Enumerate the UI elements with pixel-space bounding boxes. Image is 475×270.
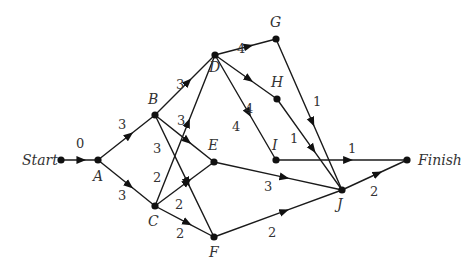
edges-group: [61, 39, 407, 237]
nodes-group: [57, 35, 410, 240]
node-a: [94, 156, 101, 163]
node-label-h: H: [270, 74, 284, 90]
node-d: [211, 51, 218, 58]
activity-network-diagram: 033333222444321112 StartABCDEFGHIJFinish: [0, 0, 475, 270]
node-label-e: E: [207, 137, 218, 153]
node-label-g: G: [270, 14, 281, 30]
edge-h-j: [277, 99, 342, 190]
node-e: [210, 158, 217, 165]
node-j: [338, 186, 345, 193]
node-label-start: Start: [22, 152, 58, 168]
edge-weight-b-e: 3: [177, 113, 185, 128]
edge-weight-i-finish: 1: [348, 141, 356, 156]
edge-weight-f-j: 2: [268, 225, 276, 240]
node-g: [272, 35, 279, 42]
node-i: [272, 156, 279, 163]
edge-weight-b-f: 3: [153, 141, 161, 156]
edge-weight-c-f: 2: [176, 226, 184, 241]
edge-weight-start-a: 0: [76, 136, 84, 151]
node-h: [273, 95, 280, 102]
node-c: [151, 202, 158, 209]
node-label-a: A: [91, 168, 103, 184]
node-label-j: J: [334, 196, 344, 212]
edge-weight-b-d: 3: [176, 77, 184, 92]
node-f: [210, 233, 217, 240]
node-label-i: I: [271, 137, 278, 153]
edge-weight-c-e: 2: [175, 197, 183, 212]
node-label-b: B: [147, 91, 158, 107]
node-label-d: D: [208, 59, 220, 75]
edge-weight-a-b: 3: [118, 117, 126, 132]
edge-weight-g-j: 1: [313, 94, 321, 109]
edge-b-d: [155, 55, 215, 115]
edge-weight-d-i: 4: [232, 119, 240, 134]
edge-d-h: [215, 55, 277, 99]
edge-weight-c-d: 2: [153, 170, 161, 185]
node-label-c: C: [148, 213, 159, 229]
node-b: [151, 111, 158, 118]
node-start: [57, 156, 64, 163]
edge-a-b: [98, 115, 155, 160]
edge-weight-h-j: 1: [290, 131, 298, 146]
edge-e-j: [214, 162, 342, 190]
edge-g-j: [276, 39, 342, 190]
edge-weight-j-finish: 2: [370, 184, 378, 199]
edge-c-f: [155, 206, 214, 237]
node-label-f: F: [208, 244, 220, 260]
edge-weight-e-j: 3: [264, 179, 272, 194]
edge-weight-d-g: 4: [237, 41, 245, 56]
edge-weight-d-h: 4: [245, 101, 253, 116]
edge-a-c: [98, 160, 155, 206]
node-finish: [403, 156, 410, 163]
edge-weight-a-c: 3: [118, 188, 126, 203]
edge-f-j: [214, 190, 342, 237]
edge-d-g: [215, 39, 276, 55]
node-label-finish: Finish: [417, 152, 462, 168]
